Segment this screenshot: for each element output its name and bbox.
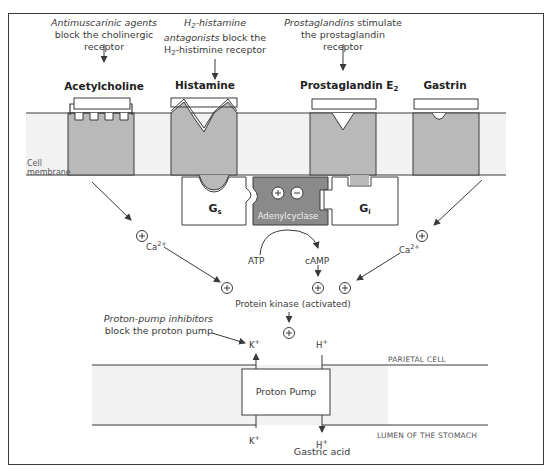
arrow-ca-pk-right [357, 253, 400, 280]
lumen-label: LUMEN OF THE STOMACH [377, 430, 477, 442]
ppi-annotation: Proton-pump inhibitorsblock the proton p… [93, 313, 213, 337]
arrow-atp-camp [260, 230, 318, 255]
k-bottom-label: K+ [249, 432, 260, 447]
parietal-cell-label: PARIETAL CELL [388, 354, 446, 366]
prostaglandin-receptor [310, 99, 376, 175]
camp-label: cAMP [305, 255, 329, 267]
atp-label: ATP [248, 255, 264, 267]
gi-label: Gi [355, 203, 375, 218]
gastrin-receptor [413, 99, 479, 175]
histamine-receptor [171, 98, 237, 175]
gastric-acid-label: Gastric acid [290, 446, 354, 458]
k-top-label: K+ [249, 336, 260, 351]
arrow-ppi [212, 333, 245, 343]
protein-kinase-label: Protein kinase (activated) [228, 298, 358, 310]
acetylcholine-ligand [74, 98, 130, 109]
gs-label: Gs [205, 203, 225, 218]
cell-membrane-label: Cellmembrane [27, 159, 71, 177]
antimuscarinic-annotation: Antimuscarinic agents block the choliner… [44, 17, 164, 53]
histamine-label: Histamine [175, 79, 235, 91]
proton-pump-label: Proton Pump [242, 386, 330, 398]
prostaglandin-label: Prostaglandin E2 [300, 79, 390, 95]
arrow-gastrin-ca [434, 180, 482, 225]
prostaglandin-annotation: Prostaglandins stimulate the prostagland… [283, 17, 403, 53]
h-top-label: H+ [316, 336, 328, 351]
ca-right-label: Ca2+ [399, 241, 420, 256]
ca-left-label: Ca2+ [146, 238, 167, 253]
diagram-graphics [0, 0, 554, 475]
arrow-ca-pk-left [164, 247, 220, 282]
h2-annotation: H2-histamine antagonists block the H2-hi… [160, 17, 270, 59]
arrow-ach-ca [92, 182, 131, 220]
adenylcyclase-label: Adenylcyclase [253, 210, 323, 222]
gastrin-label: Gastrin [415, 79, 475, 91]
acetylcholine-label: Acetylcholine [64, 80, 144, 92]
acetylcholine-receptor [68, 104, 134, 175]
